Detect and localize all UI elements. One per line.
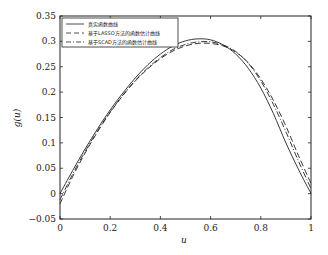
x-axis-ticks: 00.20.40.60.81 bbox=[57, 16, 314, 233]
x-tick-label: 0.2 bbox=[103, 223, 117, 233]
legend: 真实函数曲线 基于LASSO方法的函数估计曲线 基于SCAD方法的函数估计曲线 bbox=[62, 18, 178, 47]
y-axis-label: g(u) bbox=[12, 108, 22, 127]
x-tick-label: 0.4 bbox=[153, 223, 168, 233]
x-tick-label: 0.8 bbox=[254, 223, 269, 233]
x-tick-label: 0.6 bbox=[203, 223, 218, 233]
legend-label-lasso: 基于LASSO方法的函数估计曲线 bbox=[88, 30, 160, 37]
series-true-function bbox=[60, 39, 311, 194]
y-tick-label: 0 bbox=[50, 189, 56, 199]
chart-canvas: −0.0500.050.10.150.20.250.30.35 00.20.40… bbox=[0, 0, 328, 255]
y-tick-label: 0.25 bbox=[36, 62, 56, 72]
x-axis-label: u bbox=[181, 235, 187, 245]
series-lasso-estimate bbox=[60, 43, 311, 204]
y-tick-label: 0.15 bbox=[36, 113, 56, 123]
series-lines bbox=[60, 39, 311, 204]
legend-label-true: 真实函数曲线 bbox=[88, 21, 118, 28]
y-tick-label: 0.1 bbox=[42, 138, 56, 148]
x-tick-label: 1 bbox=[308, 223, 314, 233]
y-tick-label: 0.3 bbox=[42, 36, 57, 46]
y-tick-label: 0.2 bbox=[42, 87, 56, 97]
legend-label-scad: 基于SCAD方法的函数估计曲线 bbox=[88, 39, 157, 46]
series-scad-estimate bbox=[60, 42, 311, 200]
y-tick-label: 0.05 bbox=[36, 163, 56, 173]
y-tick-label: −0.05 bbox=[28, 214, 56, 224]
y-tick-label: 0.35 bbox=[36, 11, 56, 21]
x-tick-label: 0 bbox=[57, 223, 63, 233]
